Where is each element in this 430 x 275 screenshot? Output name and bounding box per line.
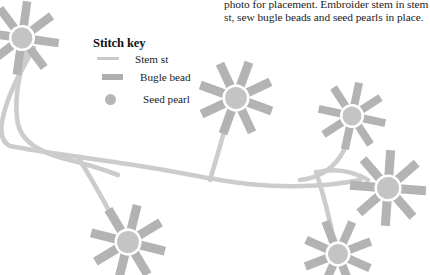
- bugle-bead-petal: [19, 1, 31, 28]
- flower-group: [0, 0, 429, 275]
- legend-item-seed-pearl: Seed pearl: [93, 88, 203, 110]
- seed-pearl-center: [325, 241, 351, 267]
- line-swatch-icon: [97, 57, 119, 60]
- bugle-bead-swatch-wrap: [93, 74, 136, 81]
- flower-right: [347, 147, 428, 228]
- legend-label-bugle-bead: Bugle bead: [136, 71, 191, 83]
- bugle-bead-petal: [126, 204, 141, 232]
- pattern-diagram-page: photo for placement. Embroider stem in s…: [0, 0, 430, 275]
- bugle-bead-petal: [318, 105, 343, 118]
- flower-bottom-right: [292, 208, 384, 275]
- circle-swatch-icon: [105, 94, 116, 105]
- flower-bottom-left: [82, 196, 174, 275]
- legend-title: Stitch key: [93, 37, 203, 50]
- seed-pearl-swatch-wrap: [93, 94, 139, 105]
- bugle-bead-petal: [350, 82, 363, 107]
- stitch-key-legend: Stitch key Stem st Bugle bead Seed pearl: [93, 37, 203, 110]
- embroidery-artwork: [0, 0, 430, 275]
- bugle-bead-petal: [381, 199, 392, 227]
- flower-top-left: [0, 0, 64, 80]
- seed-pearl-center: [222, 84, 250, 112]
- bugle-bead-petal: [341, 125, 354, 150]
- branch-to-right-flower: [318, 170, 368, 180]
- legend-item-bugle-bead: Bugle bead: [93, 66, 203, 88]
- legend-label-stem-st: Stem st: [131, 53, 168, 65]
- instruction-line-2: st, sew bugle beads and seed pearls in p…: [224, 11, 430, 24]
- bugle-bead-petal: [138, 240, 166, 255]
- bugle-bead-petal: [350, 181, 378, 192]
- bugle-bead-petal: [90, 228, 118, 243]
- rect-swatch-icon: [102, 74, 123, 81]
- legend-label-seed-pearl: Seed pearl: [139, 93, 190, 105]
- bugle-bead-petal: [32, 35, 59, 47]
- stem-st-swatch-wrap: [93, 57, 131, 60]
- instruction-line-1: photo for placement. Embroider stem in s…: [224, 0, 430, 11]
- flower-upper-right: [312, 76, 393, 157]
- instruction-text: photo for placement. Embroider stem in s…: [224, 0, 430, 24]
- bugle-bead-petal: [361, 114, 386, 127]
- bugle-bead-petal: [399, 184, 427, 195]
- legend-item-stem-st: Stem st: [93, 51, 203, 66]
- bugle-bead-petal: [384, 150, 395, 178]
